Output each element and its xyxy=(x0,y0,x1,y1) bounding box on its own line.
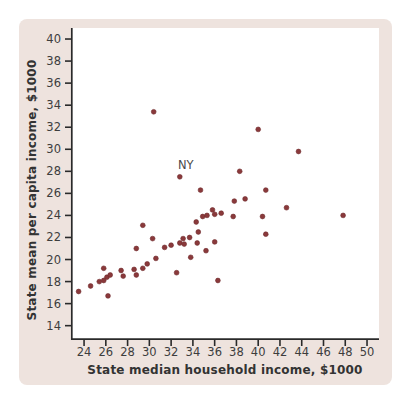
data-point xyxy=(181,236,186,241)
data-point xyxy=(260,214,265,219)
data-point xyxy=(232,199,237,204)
x-tick-label: 26 xyxy=(99,345,114,359)
y-tick-label: 14 xyxy=(46,319,61,333)
ny-point-label: NY xyxy=(178,158,195,172)
x-axis-title: State median household income, $1000 xyxy=(87,363,362,377)
data-point xyxy=(140,266,145,271)
data-point xyxy=(341,213,346,218)
y-tick-label: 40 xyxy=(46,32,61,46)
data-point xyxy=(76,289,81,294)
y-tick-label: 28 xyxy=(46,164,61,178)
data-point xyxy=(119,268,124,273)
data-point xyxy=(145,262,150,267)
data-point xyxy=(204,248,209,253)
x-tick-label: 46 xyxy=(316,345,331,359)
data-point xyxy=(284,205,289,210)
data-point xyxy=(174,270,179,275)
data-point xyxy=(212,212,217,217)
y-axis-title: State mean per capita income, $1000 xyxy=(25,60,39,321)
y-tick-label: 22 xyxy=(46,230,61,244)
y-tick-label: 16 xyxy=(46,297,61,311)
data-point xyxy=(169,243,174,248)
data-point xyxy=(121,274,126,279)
data-point xyxy=(210,208,215,213)
x-tick-label: 24 xyxy=(77,345,92,359)
data-point xyxy=(219,211,224,216)
scatter-chart: 2426283032343638404244464850141618202224… xyxy=(0,0,410,400)
y-tick-label: 30 xyxy=(46,142,61,156)
data-point xyxy=(151,109,156,114)
x-tick-label: 44 xyxy=(294,345,309,359)
data-point xyxy=(97,279,102,284)
data-point xyxy=(134,273,139,278)
data-point xyxy=(194,220,199,225)
x-tick-label: 30 xyxy=(142,345,157,359)
y-tick-label: 24 xyxy=(46,208,61,222)
y-tick-label: 32 xyxy=(46,120,61,134)
x-tick-label: 32 xyxy=(164,345,179,359)
data-point xyxy=(196,230,201,235)
data-point xyxy=(263,232,268,237)
data-point xyxy=(154,256,159,261)
x-tick-label: 38 xyxy=(229,345,244,359)
x-tick-label: 34 xyxy=(186,345,201,359)
data-point xyxy=(212,240,217,245)
y-tick-label: 36 xyxy=(46,76,61,90)
x-tick-label: 42 xyxy=(273,345,288,359)
data-point xyxy=(150,236,155,241)
data-point xyxy=(108,273,113,278)
x-tick-label: 48 xyxy=(338,345,353,359)
x-tick-label: 40 xyxy=(251,345,266,359)
data-point xyxy=(231,214,236,219)
data-point xyxy=(243,197,248,202)
y-tick-label: 34 xyxy=(46,98,61,112)
plot-area xyxy=(71,28,379,340)
data-point xyxy=(177,174,182,179)
data-point xyxy=(216,278,221,283)
x-tick-label: 50 xyxy=(360,345,375,359)
y-tick-label: 26 xyxy=(46,186,61,200)
y-tick-label: 20 xyxy=(46,253,61,267)
data-point xyxy=(106,294,111,299)
data-point xyxy=(296,149,301,154)
data-point xyxy=(88,284,93,289)
data-point xyxy=(198,188,203,193)
data-point xyxy=(205,213,210,218)
y-tick-label: 38 xyxy=(46,54,61,68)
data-point xyxy=(140,223,145,228)
y-tick-label: 18 xyxy=(46,275,61,289)
x-tick-label: 36 xyxy=(207,345,222,359)
data-point xyxy=(182,242,187,247)
data-point xyxy=(134,246,139,251)
data-point xyxy=(256,127,261,132)
data-point xyxy=(237,169,242,174)
x-tick-label: 28 xyxy=(120,345,135,359)
data-point xyxy=(101,266,106,271)
data-point xyxy=(132,267,137,272)
data-point xyxy=(162,245,167,250)
data-point xyxy=(195,241,200,246)
data-point xyxy=(263,188,268,193)
data-point xyxy=(188,255,193,260)
data-point xyxy=(177,241,182,246)
data-point xyxy=(187,235,192,240)
